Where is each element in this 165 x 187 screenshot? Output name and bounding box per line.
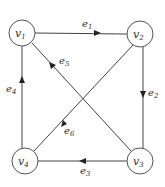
edge-e5 (32, 43, 131, 151)
graph-diagram: v1 v2 v3 v4 e1 e2 e3 e4 e5 e6 (0, 0, 165, 187)
edge-label-e6: e6 (64, 125, 75, 138)
graph-canvas: v1 v2 v3 v4 e1 e2 e3 e4 e5 e6 (0, 0, 165, 187)
edge-label-e4: e4 (6, 83, 16, 96)
node-v1: v1 (9, 20, 35, 46)
node-v3: v3 (127, 148, 153, 174)
node-v4: v4 (12, 148, 38, 174)
edge-e1 (35, 33, 127, 34)
edge-label-e5: e5 (59, 55, 70, 68)
arrow-e2-icon (140, 91, 146, 98)
edge-label-e2: e2 (148, 87, 159, 100)
edge-label-e3: e3 (80, 165, 91, 178)
arrow-e3-icon (79, 158, 86, 164)
arrow-e1-icon (94, 30, 101, 36)
edge-label-e1: e1 (82, 18, 92, 31)
arrow-e4-icon (19, 76, 25, 83)
node-v2: v2 (127, 21, 153, 47)
